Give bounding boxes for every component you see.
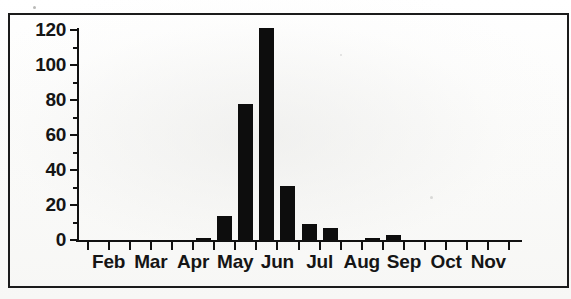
bar	[386, 235, 401, 240]
x-axis-tick	[129, 242, 131, 250]
bar-chart-figure: 020406080100120 FebMarAprMayJunJulAugSep…	[0, 0, 571, 299]
y-axis-tick-label: 40	[20, 160, 66, 179]
y-axis-tick-label: 100	[20, 55, 66, 74]
x-axis-tick-label: Apr	[177, 252, 209, 271]
x-axis-tick	[171, 242, 173, 250]
y-axis-tick-label: 0	[20, 230, 66, 249]
x-axis-tick-label: Nov	[471, 252, 506, 271]
x-axis-tick	[234, 242, 236, 250]
x-axis-tick-label: Mar	[134, 252, 167, 271]
x-axis-tick	[445, 242, 447, 250]
x-axis-tick	[361, 242, 363, 250]
x-axis-tick	[192, 242, 194, 250]
x-axis-tick	[319, 242, 321, 250]
x-axis-tick-label: Jun	[261, 252, 294, 271]
bar	[365, 238, 380, 241]
x-axis-tick	[382, 242, 384, 250]
x-axis-tick	[87, 242, 89, 250]
bar	[280, 186, 295, 240]
bar	[302, 224, 317, 240]
x-axis-tick	[508, 242, 510, 250]
x-axis-tick	[298, 242, 300, 250]
bar	[259, 28, 274, 240]
x-axis-tick	[424, 242, 426, 250]
y-axis-tick-label: 80	[20, 90, 66, 109]
x-axis-tick-label: Jul	[306, 252, 333, 271]
x-axis-tick-label: Feb	[92, 252, 125, 271]
y-axis-tick-label: 20	[20, 195, 66, 214]
y-axis-tick-label: 60	[20, 125, 66, 144]
x-axis-tick	[150, 242, 152, 250]
bar	[323, 228, 338, 240]
x-axis-tick	[340, 242, 342, 250]
x-axis-tick-label: Aug	[344, 252, 380, 271]
x-axis-tick	[255, 242, 257, 250]
bar	[238, 104, 253, 241]
x-axis-tick-labels: FebMarAprMayJunJulAugSepOctNov	[0, 252, 571, 278]
bar-series	[77, 30, 520, 240]
y-axis-tick-label: 120	[20, 20, 66, 39]
x-axis-tick	[108, 242, 110, 250]
x-axis-tick	[466, 242, 468, 250]
x-axis-tick	[487, 242, 489, 250]
x-axis-tick	[276, 242, 278, 250]
x-axis-tick-label: Oct	[431, 252, 462, 271]
bar	[217, 216, 232, 241]
x-axis-tick	[403, 242, 405, 250]
x-axis-tick-label: Sep	[387, 252, 421, 271]
x-axis-tick	[213, 242, 215, 250]
x-axis-tick-label: May	[217, 252, 253, 271]
bar	[196, 238, 211, 241]
